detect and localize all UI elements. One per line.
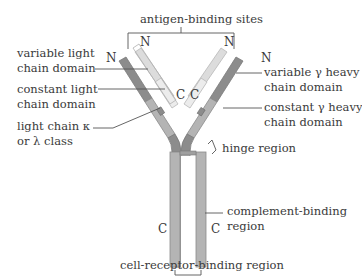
label-complement-line2: region (227, 220, 265, 234)
disulfide-bridge (180, 151, 196, 155)
antibody-diagram: antigen-binding sites variable light cha… (0, 0, 362, 278)
left-heavy-stem (170, 152, 180, 267)
leader-light-class (93, 108, 160, 128)
label-light-class-line1: light chain κ (17, 120, 90, 134)
c-terminus-right-heavy: C (211, 222, 220, 236)
n-terminus-left-light: N (140, 35, 151, 49)
label-constant-heavy-line2: chain domain (264, 116, 343, 130)
label-variable-light-line1: variable light (17, 47, 95, 61)
label-variable-light-line2: chain domain (17, 62, 96, 76)
label-complement-line1: complement-binding (227, 205, 347, 219)
label-hinge-region: hinge region (222, 142, 296, 156)
label-constant-light-line1: constant light (17, 83, 98, 97)
label-light-class-line2: or λ class (17, 135, 73, 149)
label-antigen-binding-sites: antigen-binding sites (140, 13, 263, 27)
hinge-bracket (208, 140, 216, 154)
c-terminus-right-light: C (190, 88, 199, 102)
label-variable-heavy-line2: chain domain (264, 81, 343, 95)
label-cell-receptor-binding: cell-receptor-binding region (120, 259, 284, 273)
c-terminus-left-heavy: C (158, 222, 167, 236)
right-heavy-stem (196, 152, 206, 267)
c-terminus-left-light: C (176, 88, 185, 102)
n-terminus-right-heavy: N (261, 51, 272, 65)
label-constant-heavy-line1: constant γ heavy (264, 101, 362, 115)
n-terminus-right-light: N (224, 35, 235, 49)
label-constant-light-line2: chain domain (17, 98, 96, 112)
stem-gap (181, 156, 195, 268)
label-variable-heavy-line1: variable γ heavy (264, 66, 359, 80)
n-terminus-left-heavy: N (106, 51, 117, 65)
left-light-chain (133, 44, 178, 108)
